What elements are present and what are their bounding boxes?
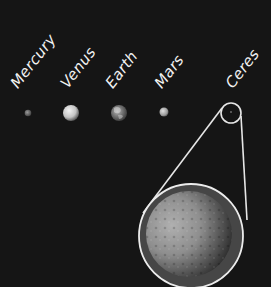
planets-scene: Mercury Venus Earth Mars Ceres [0,0,271,287]
zoom-line-right [241,116,247,220]
ceres-planet-large [146,191,232,277]
earth-planet [111,105,127,121]
venus-planet [63,105,79,121]
mercury-planet [25,110,32,117]
ceres-planet-small [230,111,232,113]
mars-planet [160,108,169,117]
